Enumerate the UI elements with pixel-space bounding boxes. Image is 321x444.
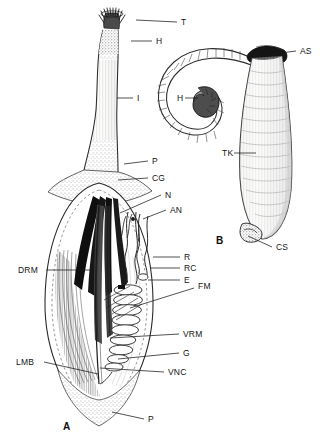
label-g: G [183,349,190,358]
label-e: E [184,276,190,285]
label-t: T [181,18,186,27]
label-tk: TK [222,149,233,158]
label-cs: CS [276,243,288,252]
label-drm: DRM [18,266,38,275]
label-lmb: LMB [16,358,34,367]
label-p1: P [152,157,158,166]
label-fm: FM [198,282,211,291]
label-as: AS [300,47,312,56]
anatomy-figure [0,0,321,444]
panel-label-a: A [63,422,70,432]
label-i: I [137,94,140,103]
label-cg: CG [152,174,165,183]
label-vnc: VNC [168,368,187,377]
label-h1: H [156,37,162,46]
label-n: N [165,191,171,200]
label-an: AN [170,206,182,215]
label-rc: RC [184,264,197,273]
label-h2: H [177,94,183,103]
label-p2: P [148,415,154,424]
label-r: R [184,253,190,262]
label-vrm: VRM [183,330,203,339]
panel-label-b: B [216,236,223,246]
